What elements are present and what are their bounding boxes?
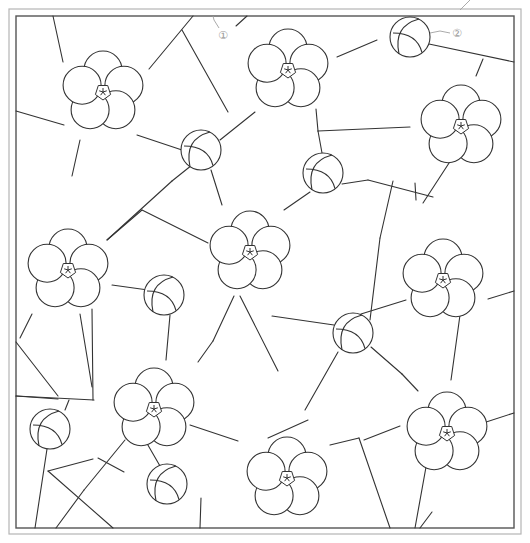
connecting-line xyxy=(198,341,213,362)
petal xyxy=(63,66,101,104)
connecting-line xyxy=(451,315,460,380)
connecting-line xyxy=(240,296,278,371)
ball-6 xyxy=(30,409,70,449)
petal xyxy=(407,407,445,445)
connecting-line xyxy=(284,192,310,210)
connecting-line xyxy=(182,30,228,112)
connecting-line xyxy=(190,425,238,441)
connecting-line xyxy=(361,300,406,314)
connecting-line xyxy=(272,316,334,325)
connecting-line xyxy=(80,314,92,387)
flower-6 xyxy=(403,239,483,317)
petal xyxy=(403,254,441,292)
flower-4 xyxy=(28,229,108,307)
connecting-line xyxy=(72,140,80,176)
ball-2 xyxy=(390,17,430,57)
connecting-line xyxy=(402,374,418,391)
callout-label-2: ② xyxy=(452,28,462,39)
ball-3 xyxy=(303,153,343,193)
connecting-line xyxy=(48,471,113,528)
connecting-line xyxy=(337,40,377,57)
petal xyxy=(28,244,66,282)
petal xyxy=(114,383,152,421)
connecting-line xyxy=(35,449,47,528)
ball-7 xyxy=(147,464,187,504)
connecting-line xyxy=(429,44,514,62)
connecting-line xyxy=(420,512,432,528)
connecting-line xyxy=(220,112,255,140)
connecting-line xyxy=(268,420,308,438)
connecting-line xyxy=(98,458,124,472)
ball-5 xyxy=(333,313,373,353)
connecting-line xyxy=(370,238,380,320)
connecting-line xyxy=(318,127,410,131)
callout-label-1: ① xyxy=(218,30,228,41)
connecting-line xyxy=(476,59,483,76)
connecting-line xyxy=(142,210,208,243)
connecting-line xyxy=(236,16,247,26)
ball-4 xyxy=(144,275,184,315)
flower-1 xyxy=(63,51,143,129)
connecting-line xyxy=(330,438,359,445)
connecting-line xyxy=(166,315,170,360)
connecting-line xyxy=(16,111,64,125)
petal xyxy=(210,226,248,264)
connecting-line xyxy=(20,314,32,338)
flower-2 xyxy=(248,29,328,107)
flower-3 xyxy=(421,85,501,163)
connecting-line xyxy=(112,285,148,290)
plum-blossom-pattern xyxy=(0,0,530,543)
flower-9 xyxy=(407,392,487,470)
petal xyxy=(248,44,286,82)
drawing-canvas: ① ② xyxy=(0,0,530,543)
connecting-line xyxy=(305,352,338,410)
connecting-line xyxy=(371,347,402,374)
flower-7 xyxy=(114,368,194,446)
connecting-line xyxy=(380,181,393,238)
connecting-line xyxy=(415,467,426,528)
flower-5 xyxy=(210,211,290,289)
connecting-line xyxy=(368,180,433,197)
flower-motifs xyxy=(28,29,501,515)
connecting-line xyxy=(53,16,63,62)
connecting-line xyxy=(48,459,93,471)
connecting-line xyxy=(137,135,182,150)
connecting-line xyxy=(200,498,201,528)
connecting-line xyxy=(318,131,322,153)
connecting-line xyxy=(423,160,451,203)
callout-leader-1 xyxy=(213,16,219,28)
ball-1 xyxy=(181,130,221,170)
petal xyxy=(247,452,285,490)
connecting-line xyxy=(84,440,125,490)
connecting-line xyxy=(56,490,84,528)
connecting-line xyxy=(359,438,390,528)
connecting-line xyxy=(211,170,222,205)
petal xyxy=(421,100,459,138)
connecting-line xyxy=(316,109,318,131)
connecting-line xyxy=(364,426,400,440)
callout-leader-2 xyxy=(430,31,450,33)
connecting-line xyxy=(149,16,193,69)
connecting-line xyxy=(65,400,69,410)
connecting-line xyxy=(172,165,192,181)
connecting-line xyxy=(16,342,58,396)
connecting-line xyxy=(342,180,368,184)
connecting-line xyxy=(213,296,234,341)
connecting-line xyxy=(107,210,142,240)
flower-8 xyxy=(247,437,327,515)
connecting-line xyxy=(488,291,514,299)
connecting-line xyxy=(415,183,416,200)
